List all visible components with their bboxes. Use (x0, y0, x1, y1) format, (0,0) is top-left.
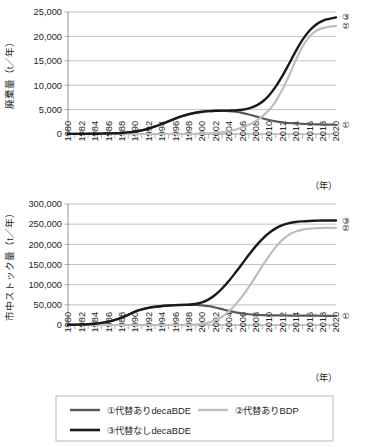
x-axis-title: （年） (310, 372, 337, 383)
chart-canvas: 05,00010,00015,00020,00025,0001980198219… (0, 0, 371, 447)
x-tick-label: 2012 (278, 121, 288, 142)
x-tick-label: 1990 (130, 312, 140, 333)
x-tick-label: 1980 (63, 121, 73, 142)
x-tick-label: 2006 (238, 121, 248, 142)
y-tick-label: 0 (57, 129, 62, 139)
x-tick-label: 1984 (90, 121, 100, 142)
series-tag-3: ③ (342, 12, 350, 22)
x-tick-label: 2010 (264, 121, 274, 142)
x-tick-label: 1992 (144, 312, 154, 333)
series-tag-1: ① (342, 120, 350, 130)
x-tick-label: 2000 (197, 312, 207, 333)
x-tick-label: 2002 (211, 121, 221, 142)
legend-label-2: ②代替ありBDP (235, 405, 299, 416)
y-tick-label: 300,000 (28, 199, 62, 209)
x-tick-label: 1998 (184, 312, 194, 333)
y-tick-label: 20,000 (34, 32, 62, 42)
y-tick-label: 50,000 (34, 300, 62, 310)
x-axis-title: （年） (310, 180, 337, 191)
figure-container: 05,00010,00015,00020,00025,0001980198219… (0, 0, 371, 447)
y-tick-label: 25,000 (34, 7, 62, 17)
y-tick-label: 0 (57, 320, 62, 330)
x-tick-label: 1996 (171, 121, 181, 142)
series-tag-3: ③ (342, 216, 350, 226)
x-tick-label: 1982 (77, 312, 87, 333)
x-tick-label: 1988 (117, 121, 127, 142)
y-tick-label: 200,000 (28, 240, 62, 250)
x-tick-label: 1996 (171, 312, 181, 333)
y-axis-title: 廃棄量（t／年） (4, 37, 15, 110)
y-tick-label: 15,000 (34, 56, 62, 66)
x-tick-label: 2000 (197, 121, 207, 142)
legend-label-3: ③代替なしdecaBDE (107, 425, 191, 436)
y-tick-label: 150,000 (28, 260, 62, 270)
x-tick-label: 1992 (144, 121, 154, 142)
x-tick-label: 1994 (157, 312, 167, 333)
series-tag-1: ① (342, 311, 350, 321)
y-axis-title: 市中ストック量（t／年） (4, 208, 15, 321)
y-tick-label: 10,000 (34, 81, 62, 91)
x-tick-label: 1980 (63, 312, 73, 333)
x-tick-label: 1982 (77, 121, 87, 142)
y-tick-label: 250,000 (28, 219, 62, 229)
series-tag-2: ② (342, 21, 350, 31)
y-tick-label: 5,000 (39, 105, 62, 115)
x-tick-label: 1986 (104, 121, 114, 142)
x-tick-label: 1998 (184, 121, 194, 142)
y-tick-label: 100,000 (28, 280, 62, 290)
legend-label-1: ①代替ありdecaBDE (107, 405, 191, 416)
